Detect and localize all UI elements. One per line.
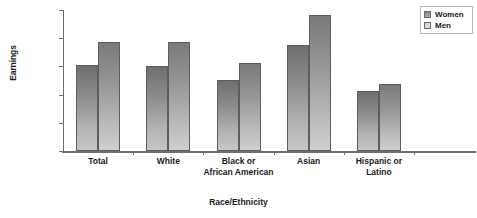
- y-axis-tick: [59, 10, 63, 11]
- legend-swatch-women-icon: [424, 11, 431, 18]
- y-axis-tick: [59, 95, 63, 96]
- bar-women-4: [357, 91, 379, 151]
- bar-women-2: [217, 80, 239, 151]
- x-axis-tick: [274, 151, 275, 155]
- y-axis-tick: [59, 123, 63, 124]
- bar-men-1: [168, 42, 190, 151]
- x-axis-category-line: African American: [184, 167, 294, 178]
- bar-chart: Earnings $0$200$400$600$800$1,000 Race/E…: [0, 0, 477, 218]
- y-axis-tick: [59, 151, 63, 152]
- x-axis-title: Race/Ethnicity: [0, 197, 477, 207]
- x-axis-tick: [344, 151, 345, 155]
- x-axis-category-line: Hispanic or: [324, 156, 434, 167]
- y-axis-title: Earnings: [8, 28, 18, 98]
- x-axis-tick: [414, 151, 415, 155]
- plot-area: $0$200$400$600$800$1,000: [63, 10, 414, 151]
- bar-men-3: [309, 15, 331, 151]
- y-axis-tick: [59, 66, 63, 67]
- y-axis-tick: [59, 38, 63, 39]
- legend-label-men: Men: [435, 21, 451, 30]
- bar-women-0: [76, 65, 98, 151]
- chart-legend: Women Men: [420, 6, 473, 34]
- legend-label-women: Women: [435, 10, 464, 19]
- x-axis-category-line: Latino: [324, 167, 434, 178]
- bar-women-1: [146, 66, 168, 151]
- x-axis-tick: [133, 151, 134, 155]
- legend-item-women: Women: [424, 9, 469, 19]
- bar-men-4: [379, 84, 401, 151]
- y-axis-line: [63, 10, 64, 151]
- bar-women-3: [287, 45, 309, 151]
- legend-item-men: Men: [424, 20, 469, 30]
- legend-swatch-men-icon: [424, 22, 431, 29]
- x-axis-category-label: Hispanic orLatino: [324, 156, 434, 177]
- x-axis-tick: [203, 151, 204, 155]
- bar-men-2: [239, 63, 261, 151]
- bar-men-0: [98, 42, 120, 151]
